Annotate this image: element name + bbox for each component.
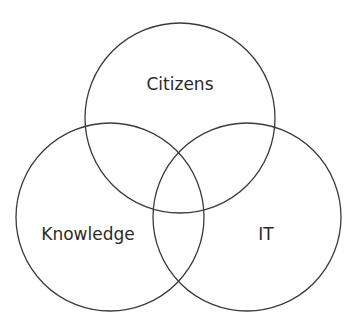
- it-circle: [153, 123, 341, 311]
- citizens-circle: [85, 23, 275, 213]
- citizens-label: Citizens: [147, 74, 214, 94]
- knowledge-circle: [16, 123, 204, 311]
- venn-diagram: Citizens Knowledge IT: [0, 0, 354, 330]
- knowledge-label: Knowledge: [41, 224, 134, 244]
- it-label: IT: [258, 224, 274, 244]
